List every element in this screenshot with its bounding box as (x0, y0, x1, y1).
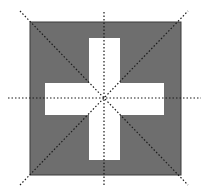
symmetry-diagram (0, 0, 214, 191)
